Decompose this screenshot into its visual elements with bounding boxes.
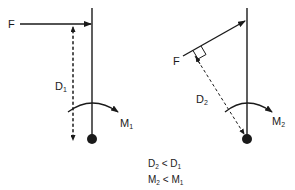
left-pivot-dot — [87, 134, 97, 144]
left-force-label: F — [8, 19, 15, 30]
left-distance-label: D1 — [55, 81, 67, 93]
right-panel — [183, 8, 272, 144]
right-force-arrow — [183, 21, 245, 56]
right-angle-marker — [193, 46, 206, 59]
caption-line-distance: D2 < D1 — [148, 157, 183, 173]
left-moment-arc — [68, 103, 118, 112]
left-panel — [20, 8, 118, 144]
comparison-caption: D2 < D1 M2 < M1 — [148, 157, 183, 189]
right-distance-label: D2 — [196, 94, 208, 106]
caption-line-moment: M2 < M1 — [148, 173, 183, 189]
right-moment-arc — [225, 103, 272, 112]
left-moment-label: M1 — [120, 118, 133, 130]
right-force-label: F — [173, 56, 180, 67]
right-moment-label: M2 — [272, 116, 285, 128]
right-pivot-dot — [242, 134, 252, 144]
